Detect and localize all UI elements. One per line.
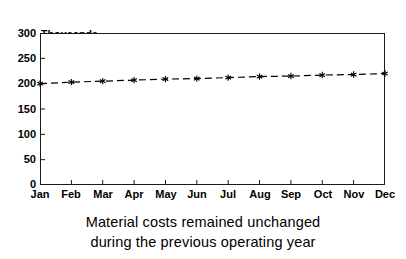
series-line-material-costs: [40, 74, 385, 84]
x-axis-ticks: [71, 180, 353, 185]
y-tick-label-150: 150: [2, 104, 36, 115]
y-tick-label-100: 100: [2, 129, 36, 140]
plot-area: [40, 33, 385, 185]
y-tick-label-200: 200: [2, 78, 36, 89]
y-tick-label-50: 50: [2, 154, 36, 165]
chart-caption: Material costs remained unchanged during…: [0, 212, 406, 252]
chart-figure: Thousands of Dollars 300 250 200 150 100…: [0, 0, 406, 259]
y-axis-ticks: [40, 58, 45, 159]
y-tick-label-250: 250: [2, 53, 36, 64]
data-point-marker: [288, 73, 294, 79]
x-axis-tick-labels: Jan Feb Mar Apr May Jun Jul Aug Sep Oct …: [0, 188, 406, 204]
x-tick-label-dec: Dec: [365, 188, 405, 200]
caption-line-1: Material costs remained unchanged: [0, 212, 406, 232]
caption-line-2: during the previous operating year: [0, 232, 406, 252]
series-markers: [37, 70, 388, 87]
y-tick-label-300: 300: [2, 28, 36, 39]
